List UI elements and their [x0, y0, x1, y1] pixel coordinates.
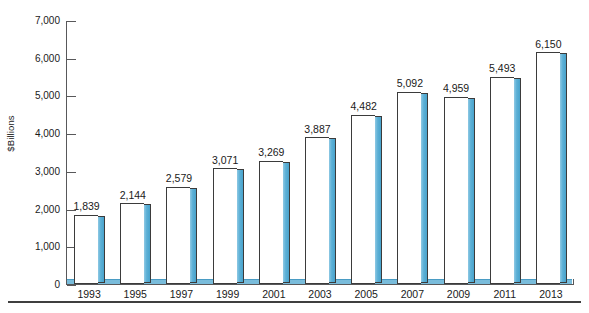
y-tick: [67, 96, 76, 97]
y-tick-label: 3,000: [35, 167, 60, 177]
bar-value-label: 6,150: [535, 39, 561, 50]
bar-value-label: 3,269: [258, 147, 284, 158]
y-tick-label: 6,000: [35, 54, 60, 64]
bar-side-face: [144, 204, 151, 283]
bar-side-face: [237, 169, 244, 283]
x-axis-label: 1995: [124, 289, 147, 300]
bar-value-label: 3,071: [212, 155, 238, 166]
y-tick: [67, 59, 76, 60]
y-tick-label: 2,000: [35, 205, 60, 215]
bar: 3,071: [213, 168, 237, 284]
bar-value-label: 4,482: [351, 101, 377, 112]
bar-side-face: [514, 78, 521, 283]
y-tick-label: 5,000: [35, 91, 60, 101]
x-axis-label: 2013: [539, 289, 562, 300]
x-axis-label: 2005: [354, 289, 377, 300]
y-axis-title: $Billions: [5, 98, 16, 170]
y-tick: [67, 172, 76, 173]
bar: 5,092: [397, 92, 421, 284]
y-tick-label: 4,000: [35, 129, 60, 139]
x-axis-endcap: [573, 279, 574, 285]
bar-chart: $Billions 01,0002,0003,0004,0005,0006,00…: [0, 0, 589, 313]
y-tick: [67, 285, 76, 286]
bar: 2,144: [120, 203, 144, 284]
y-tick-label: 1,000: [35, 242, 60, 252]
bar-value-label: 4,959: [443, 83, 469, 94]
y-tick-label: 0: [54, 280, 60, 290]
bar: 2,579: [166, 187, 190, 284]
x-axis-label: 1999: [216, 289, 239, 300]
plot-area: 01,0002,0003,0004,0005,0006,0007,000 1,8…: [66, 21, 574, 285]
x-axis-label: 2007: [401, 289, 424, 300]
x-axis-label: 2001: [262, 289, 285, 300]
x-axis-label: 2011: [493, 289, 516, 300]
y-tick: [67, 21, 76, 22]
bar-side-face: [421, 93, 428, 283]
bar-value-label: 2,579: [166, 173, 192, 184]
x-axis-line: [66, 284, 574, 285]
x-axis-label: 1993: [77, 289, 100, 300]
bar-value-label: 5,092: [397, 78, 423, 89]
x-axis-label: 2009: [447, 289, 470, 300]
y-tick: [67, 134, 76, 135]
bottom-divider: [8, 301, 581, 303]
bar: 3,887: [305, 137, 329, 284]
bar-side-face: [329, 138, 336, 283]
bar-side-face: [468, 98, 475, 283]
bar-side-face: [283, 162, 290, 283]
bar-side-face: [190, 188, 197, 283]
bar-side-face: [560, 53, 567, 283]
bar-side-face: [98, 216, 105, 283]
x-axis-label: 1997: [170, 289, 193, 300]
bar: 4,482: [351, 115, 375, 284]
bar-value-label: 2,144: [120, 190, 146, 201]
y-tick-label: 7,000: [35, 16, 60, 26]
bar-value-label: 5,493: [489, 63, 515, 74]
bar: 5,493: [490, 77, 514, 284]
bar: 3,269: [259, 161, 283, 284]
bar: 4,959: [444, 97, 468, 284]
bar-value-label: 1,839: [73, 201, 99, 212]
y-axis-line: [66, 21, 67, 285]
x-axis-label: 2003: [308, 289, 331, 300]
bar-side-face: [375, 116, 382, 283]
bar: 6,150: [536, 52, 560, 284]
bar-value-label: 3,887: [304, 124, 330, 135]
bar: 1,839: [74, 215, 98, 284]
